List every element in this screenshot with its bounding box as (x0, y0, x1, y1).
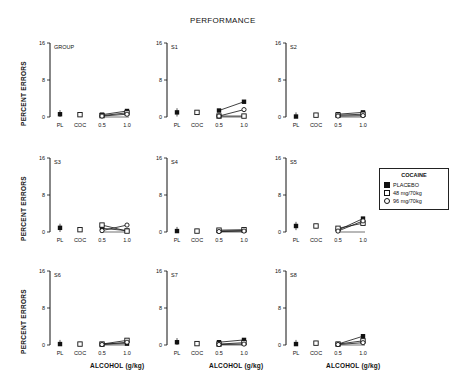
svg-text:1.0: 1.0 (240, 350, 248, 356)
svg-text:PL: PL (174, 350, 181, 356)
svg-text:16: 16 (39, 40, 45, 46)
svg-text:16: 16 (39, 155, 45, 161)
svg-text:0.5: 0.5 (98, 122, 106, 128)
svg-text:COC: COC (191, 122, 203, 128)
svg-text:COC: COC (191, 350, 203, 356)
svg-text:S1: S1 (171, 44, 178, 50)
svg-text:8: 8 (278, 305, 281, 311)
svg-text:PL: PL (174, 237, 181, 243)
svg-text:8: 8 (42, 77, 45, 83)
svg-text:1.0: 1.0 (123, 122, 131, 128)
svg-text:0.5: 0.5 (215, 122, 223, 128)
svg-text:0: 0 (278, 229, 281, 235)
svg-text:S7: S7 (171, 272, 178, 278)
svg-text:1.0: 1.0 (123, 350, 131, 356)
svg-text:8: 8 (159, 77, 162, 83)
svg-text:S3: S3 (54, 159, 61, 165)
svg-text:0.5: 0.5 (334, 122, 342, 128)
svg-text:0: 0 (42, 114, 45, 120)
svg-text:0.5: 0.5 (334, 237, 342, 243)
svg-text:PL: PL (293, 350, 300, 356)
svg-text:0: 0 (278, 114, 281, 120)
svg-text:0: 0 (159, 114, 162, 120)
svg-text:0.5: 0.5 (334, 350, 342, 356)
svg-text:COC: COC (74, 237, 86, 243)
svg-text:16: 16 (275, 155, 281, 161)
svg-text:COC: COC (310, 350, 322, 356)
svg-text:8: 8 (42, 192, 45, 198)
svg-text:0.5: 0.5 (215, 237, 223, 243)
open-square-marker-icon (384, 190, 390, 196)
svg-text:1.0: 1.0 (359, 122, 367, 128)
svg-text:PL: PL (293, 122, 300, 128)
svg-text:8: 8 (42, 305, 45, 311)
svg-text:S6: S6 (54, 272, 61, 278)
svg-text:16: 16 (275, 268, 281, 274)
svg-text:COC: COC (310, 122, 322, 128)
svg-text:0: 0 (159, 229, 162, 235)
svg-text:0.5: 0.5 (215, 350, 223, 356)
svg-text:COC: COC (74, 350, 86, 356)
svg-text:S8: S8 (290, 272, 297, 278)
legend-title: COCAINE (384, 172, 444, 178)
filled-square-marker-icon (384, 182, 390, 188)
legend-item-48mg: 48 mg/70kg (384, 189, 444, 197)
svg-text:16: 16 (156, 40, 162, 46)
svg-text:1.0: 1.0 (240, 122, 248, 128)
svg-text:0.5: 0.5 (98, 237, 106, 243)
svg-text:PL: PL (57, 350, 64, 356)
svg-text:GROUP: GROUP (54, 44, 75, 50)
svg-text:S2: S2 (290, 44, 297, 50)
svg-text:1.0: 1.0 (359, 237, 367, 243)
svg-text:1.0: 1.0 (123, 237, 131, 243)
svg-text:1.0: 1.0 (240, 237, 248, 243)
svg-text:PL: PL (57, 122, 64, 128)
svg-text:8: 8 (278, 192, 281, 198)
svg-text:16: 16 (156, 268, 162, 274)
svg-text:0.5: 0.5 (98, 350, 106, 356)
legend-item-placebo: PLACEBO (384, 181, 444, 189)
svg-text:16: 16 (156, 155, 162, 161)
svg-text:8: 8 (159, 192, 162, 198)
svg-text:PL: PL (174, 122, 181, 128)
open-circle-marker-icon (384, 198, 390, 204)
svg-text:1.0: 1.0 (359, 350, 367, 356)
svg-text:8: 8 (278, 77, 281, 83)
svg-text:0: 0 (159, 342, 162, 348)
svg-text:COC: COC (74, 122, 86, 128)
svg-text:COC: COC (191, 237, 203, 243)
legend: COCAINE PLACEBO 48 mg/70kg 96 mg/70kg (379, 168, 449, 210)
svg-text:S4: S4 (171, 159, 178, 165)
svg-text:0: 0 (42, 342, 45, 348)
svg-text:0: 0 (278, 342, 281, 348)
svg-text:S5: S5 (290, 159, 297, 165)
svg-text:COC: COC (310, 237, 322, 243)
svg-text:0: 0 (42, 229, 45, 235)
svg-text:16: 16 (39, 268, 45, 274)
svg-text:PL: PL (57, 237, 64, 243)
legend-item-96mg: 96 mg/70kg (384, 197, 444, 205)
svg-text:8: 8 (159, 305, 162, 311)
svg-text:PL: PL (293, 237, 300, 243)
svg-text:16: 16 (275, 40, 281, 46)
